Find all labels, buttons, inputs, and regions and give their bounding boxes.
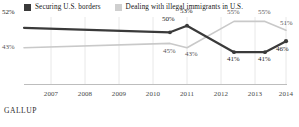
- series-line-dealing: [24, 21, 286, 47]
- x-tick-2008: 2008: [78, 90, 92, 98]
- legend-label-securing: Securing U.S. borders: [35, 3, 101, 11]
- x-tick-2010: 2010: [146, 90, 160, 98]
- value-label-securing-start: 52%: [2, 8, 15, 16]
- value-label-securing-end: 46%: [276, 45, 289, 53]
- x-axis: 2007 2008 2009 2010 2011 2012 2013 2014: [24, 84, 287, 100]
- x-tick-2012: 2012: [214, 90, 228, 98]
- plot-svg: [24, 17, 287, 84]
- chart-legend: Securing U.S. borders Dealing with illeg…: [24, 3, 243, 11]
- value-label-dealing-2012: 55%: [227, 8, 240, 16]
- x-axis-line: [24, 84, 287, 85]
- value-label-dealing-2013: 55%: [258, 8, 271, 16]
- series-line-securing: [24, 26, 286, 53]
- x-tick-2007: 2007: [44, 90, 58, 98]
- plot-area: 52% 50% 53% 41% 41% 46% 43% 45% 43% 55% …: [24, 17, 287, 84]
- value-label-securing-2010: 50%: [162, 15, 175, 23]
- value-label-dealing-end: 51%: [280, 19, 293, 27]
- value-label-dealing-2011: 43%: [185, 50, 198, 58]
- x-tick-2011: 2011: [180, 90, 194, 98]
- value-label-dealing-2010: 45%: [163, 47, 176, 55]
- gallup-line-chart: Securing U.S. borders Dealing with illeg…: [0, 0, 299, 127]
- legend-item-dealing: Dealing with illegal immigrants in U.S.: [115, 3, 244, 11]
- legend-swatch-securing-icon: [24, 4, 31, 11]
- value-label-securing-2013: 41%: [258, 55, 271, 63]
- value-label-dealing-start: 43%: [2, 43, 15, 51]
- value-label-securing-2011: 53%: [180, 7, 193, 15]
- x-tick-2009: 2009: [112, 90, 126, 98]
- source-attribution: GALLUP: [4, 106, 37, 115]
- x-tick-2013: 2013: [248, 90, 262, 98]
- x-tick-2014: 2014: [279, 90, 293, 98]
- legend-swatch-dealing-icon: [115, 4, 122, 11]
- legend-item-securing: Securing U.S. borders: [24, 3, 101, 11]
- value-label-securing-2012: 41%: [227, 55, 240, 63]
